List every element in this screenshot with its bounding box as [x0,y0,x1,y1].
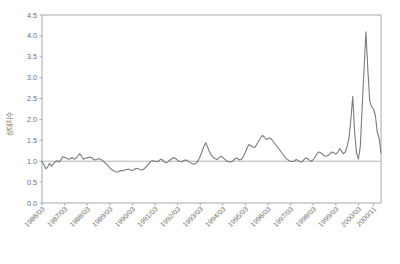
line-chart: 상대지수 0.00.51.01.52.02.53.03.54.04.5 1986… [0,0,400,264]
y-tick-label: 0.5 [27,178,37,187]
y-tick-label: 2.5 [27,94,37,103]
y-tick-label: 1.5 [27,136,37,145]
y-axis-title: 상대지수 [5,111,14,136]
y-tick-label: 4.5 [27,11,37,20]
chart-container: 상대지수 0.00.51.01.52.02.53.03.54.04.5 1986… [0,0,400,264]
y-tick-label: 3.5 [27,52,37,61]
y-tick-label: 4.0 [27,31,37,40]
y-tick-label: 3.0 [27,73,37,82]
y-tick-label: 2.0 [27,115,37,124]
y-tick-label: 0.0 [27,199,37,208]
y-tick-label: 1.0 [27,157,37,166]
